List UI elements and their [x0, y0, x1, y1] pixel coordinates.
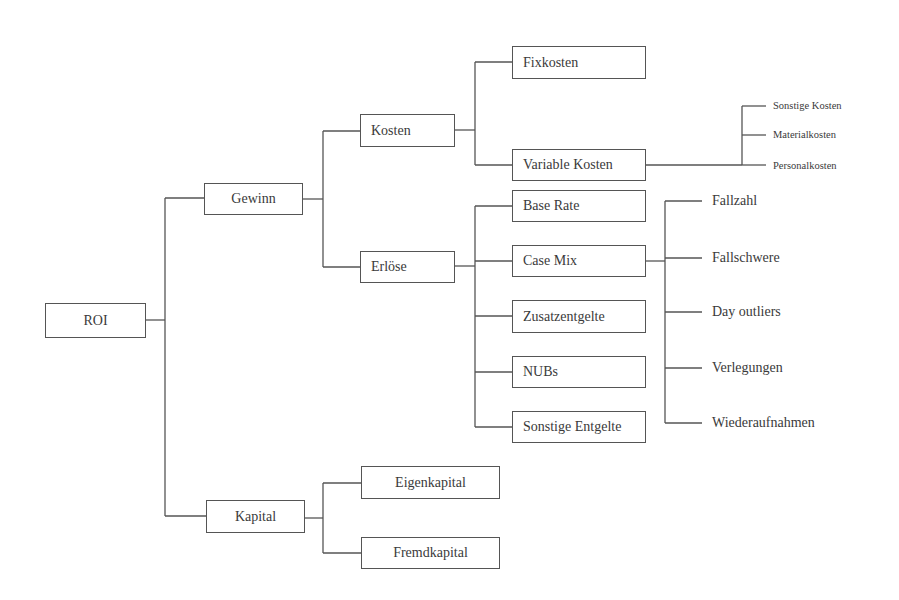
leaf-fallzahl: Fallzahl	[712, 194, 757, 208]
leaf-verlegungen: Verlegungen	[712, 361, 783, 375]
leaf-sonstige-kosten: Sonstige Kosten	[773, 101, 842, 112]
node-fixkosten: Fixkosten	[512, 46, 646, 79]
node-erloese: Erlöse	[360, 251, 455, 283]
node-kosten: Kosten	[360, 114, 455, 147]
leaf-fallschwere: Fallschwere	[712, 251, 780, 265]
leaf-day-outliers: Day outliers	[712, 305, 781, 319]
node-roi: ROI	[45, 303, 146, 338]
node-gewinn: Gewinn	[204, 183, 303, 215]
connector-lines	[0, 0, 899, 600]
node-case-mix: Case Mix	[512, 245, 646, 277]
node-fremdkapital: Fremdkapital	[361, 537, 500, 569]
roi-tree-diagram: ROI Gewinn Kapital Kosten Erlöse Eigenka…	[0, 0, 899, 600]
node-zusatzentgelte: Zusatzentgelte	[512, 300, 646, 333]
leaf-materialkosten: Materialkosten	[773, 130, 836, 141]
node-variable-kosten: Variable Kosten	[512, 149, 646, 181]
node-kapital: Kapital	[206, 500, 305, 533]
node-nubs: NUBs	[512, 356, 646, 388]
leaf-wiederaufnahmen: Wiederaufnahmen	[712, 416, 815, 430]
node-sonstige-entgelte: Sonstige Entgelte	[512, 411, 646, 443]
leaf-personalkosten: Personalkosten	[773, 161, 837, 172]
node-eigenkapital: Eigenkapital	[361, 466, 500, 499]
node-base-rate: Base Rate	[512, 190, 646, 222]
